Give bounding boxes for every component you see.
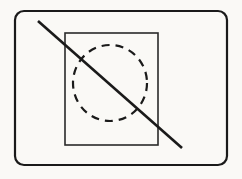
diagonal-strike-line [38, 21, 182, 148]
inner-rectangle [65, 33, 158, 145]
rounded-rectangle-border [15, 11, 227, 165]
pictogram-svg [0, 0, 242, 179]
pictogram-canvas [0, 0, 242, 179]
